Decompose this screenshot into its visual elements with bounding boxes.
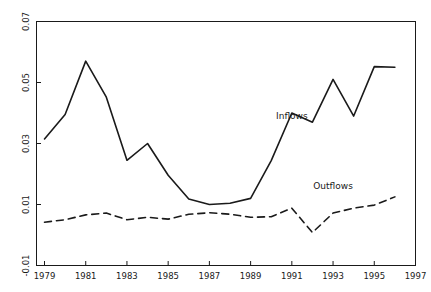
series-label-inflows: Inflows xyxy=(276,111,308,121)
y-tick-label: 0.05 xyxy=(21,73,31,92)
x-tick-label: 1995 xyxy=(363,271,385,281)
y-tick-label: -0.01 xyxy=(21,255,31,277)
x-tick-label: 1997 xyxy=(405,271,427,281)
y-tick-label: 0.07 xyxy=(21,12,31,31)
x-tick-label: 1985 xyxy=(157,271,179,281)
series-label-outflows: Outflows xyxy=(313,181,353,191)
chart-root: 1979198119831985198719891991199319951997… xyxy=(0,0,431,292)
line-chart: 1979198119831985198719891991199319951997… xyxy=(0,0,431,292)
x-tick-label: 1979 xyxy=(34,271,56,281)
x-tick-label: 1987 xyxy=(199,271,221,281)
y-tick-label: 0.03 xyxy=(21,134,31,153)
chart-background xyxy=(0,0,431,292)
x-tick-label: 1991 xyxy=(281,271,303,281)
x-tick-label: 1989 xyxy=(240,271,262,281)
y-tick-label: 0.01 xyxy=(21,195,31,214)
x-tick-label: 1981 xyxy=(75,271,97,281)
x-tick-label: 1993 xyxy=(322,271,344,281)
x-tick-label: 1983 xyxy=(116,271,138,281)
